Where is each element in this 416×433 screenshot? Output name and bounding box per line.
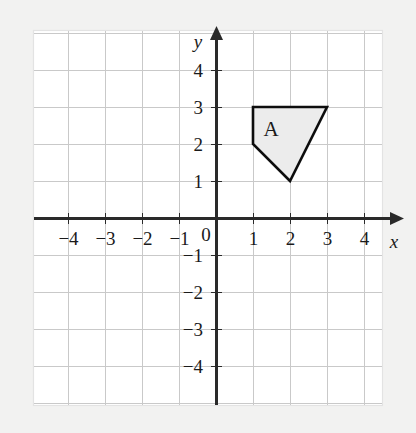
shape-a-label: A — [263, 117, 279, 141]
y-axis-label: y — [192, 31, 203, 52]
x-tick-label--2: −2 — [132, 228, 152, 249]
x-tick-label-3: 3 — [323, 228, 333, 249]
y-tick-label--3: −3 — [183, 319, 203, 340]
coordinate-plane-svg: −4 −3 −2 −1 1 2 3 4 4 3 2 1 −1 −2 −3 −4 … — [0, 0, 416, 433]
coordinate-grid-figure: −4 −3 −2 −1 1 2 3 4 4 3 2 1 −1 −2 −3 −4 … — [0, 0, 416, 433]
y-tick-label-2: 2 — [194, 134, 204, 155]
x-tick-label-2: 2 — [286, 228, 296, 249]
y-tick-label-3: 3 — [194, 97, 204, 118]
y-tick-label-1: 1 — [194, 171, 204, 192]
x-tick-label--4: −4 — [58, 228, 79, 249]
x-axis-label: x — [389, 231, 399, 252]
y-tick-label-4: 4 — [194, 60, 204, 81]
origin-label: 0 — [201, 224, 211, 245]
x-tick-label-4: 4 — [360, 228, 370, 249]
x-tick-label--3: −3 — [95, 228, 115, 249]
y-tick-label--4: −4 — [183, 356, 204, 377]
x-tick-label-1: 1 — [249, 228, 259, 249]
y-tick-label--1: −1 — [183, 245, 203, 266]
y-tick-label--2: −2 — [183, 282, 203, 303]
